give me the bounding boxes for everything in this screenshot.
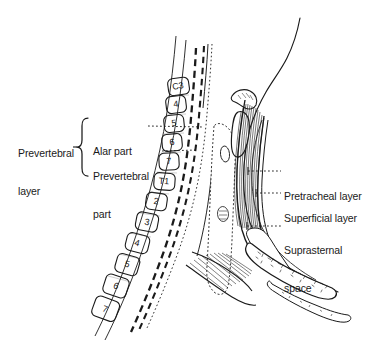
label-prevertebral-layer: Prevertebral layer — [18, 122, 74, 222]
label-suprasternal-space-line2: space — [284, 282, 342, 295]
anatomy-figure-page: Prevertebral layer Alar part Prevertebra… — [0, 0, 374, 350]
label-suprasternal-space: Suprasternal space — [284, 219, 342, 319]
label-prevertebral-part: Prevertebral part — [93, 145, 149, 245]
label-prevertebral-part-line1: Prevertebral — [93, 170, 149, 183]
label-prevertebral-layer-line1: Prevertebral — [18, 147, 74, 160]
label-prevertebral-layer-line2: layer — [18, 185, 74, 198]
prevertebral-layer-brace — [77, 118, 88, 176]
label-suprasternal-space-line1: Suprasternal — [284, 244, 342, 257]
label-prevertebral-part-line2: part — [93, 208, 149, 221]
